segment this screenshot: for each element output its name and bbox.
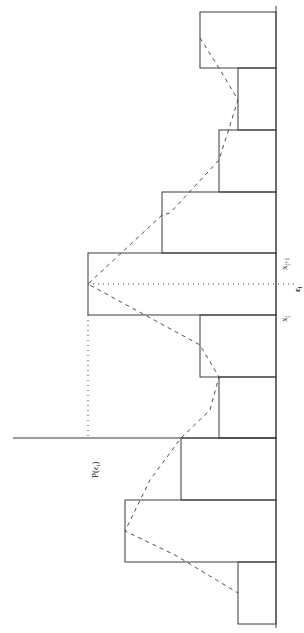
bars (88, 12, 276, 624)
bar-4 (162, 192, 276, 253)
bar-7 (219, 377, 276, 438)
bar-8 (181, 438, 276, 500)
xj-label: xj (279, 316, 290, 323)
histogram-figure: P(εi) xj xj+1 εi (0, 0, 304, 633)
bar-2 (238, 68, 276, 130)
bar-6 (200, 315, 276, 377)
p-eps-label: P(εi) (90, 462, 101, 478)
bar-5 (88, 253, 276, 315)
bar-10 (238, 562, 276, 624)
bar-3 (219, 130, 276, 192)
eps-label: εi (292, 286, 303, 292)
bar-1 (200, 12, 276, 68)
xj1-label: xj+1 (279, 257, 290, 270)
bar-9 (125, 500, 276, 562)
